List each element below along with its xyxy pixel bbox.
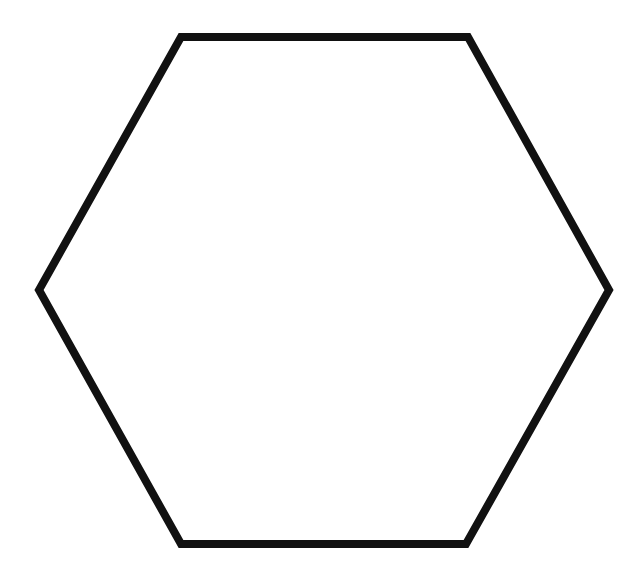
hexagon-shape [39, 37, 609, 544]
hexagon-diagram [0, 0, 643, 574]
